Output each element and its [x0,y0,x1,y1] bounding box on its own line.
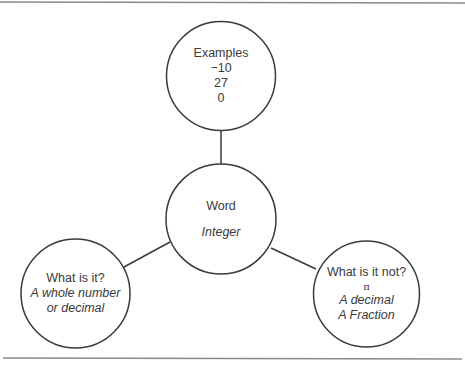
bottom-rule [3,358,462,359]
top-rule [0,2,465,3]
word-title: Word [206,199,236,214]
example-item: 0 [218,91,225,106]
what-is-it-line: A whole number [31,286,121,301]
word-term: Integer [202,225,241,240]
connector-right [271,248,316,269]
what-is-it-not-node: What is it not? π A decimal A Fraction [313,241,420,347]
what-is-it-title: What is it? [46,271,104,286]
example-item: 27 [214,76,228,91]
what-is-it-not-line: A decimal [339,293,393,308]
what-is-it-node: What is it? A whole number or decimal [20,239,131,348]
what-is-it-line: or decimal [47,301,105,316]
what-is-it-not-title: What is it not? [327,265,406,280]
word-node: Word Integer [166,164,276,274]
example-item: −10 [210,61,231,76]
examples-node: Examples −10 27 0 [166,22,276,130]
examples-title: Examples [194,46,249,61]
what-is-it-not-line: A Fraction [338,308,395,323]
pi-symbol: π [363,280,370,293]
